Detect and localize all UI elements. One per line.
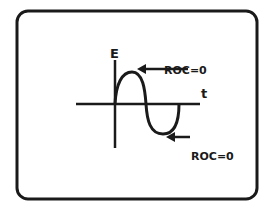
peak-annotation: ROC=0 <box>164 64 207 77</box>
trough-annotation: ROC=0 <box>191 150 234 163</box>
peak-arrow-icon <box>137 64 146 74</box>
y-axis-label: E <box>110 46 119 61</box>
x-axis-label: t <box>201 86 207 101</box>
sine-wave-diagram: E t ROC=0 ROC=0 <box>0 0 271 208</box>
